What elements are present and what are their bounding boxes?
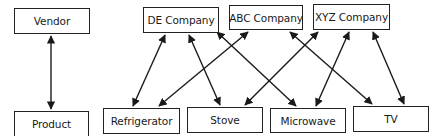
node-label: TV	[384, 113, 397, 125]
edge-de-company-stove	[189, 35, 220, 105]
node-de-company: DE Company	[143, 7, 219, 33]
node-label: Vendor	[34, 15, 70, 27]
node-xyz-company: XYZ Company	[313, 4, 390, 30]
node-label: Refrigerator	[111, 115, 173, 127]
vendor-product-diagram: Vendor Product DE Company ABC Company XY…	[0, 0, 439, 136]
edge-de-company-refrigerator	[133, 35, 165, 106]
node-microwave: Microwave	[270, 108, 346, 133]
edge-abc-company-tv	[290, 32, 372, 104]
edge-abc-company-refrigerator	[159, 32, 248, 106]
node-label: XYZ Company	[315, 11, 388, 23]
node-label: Stove	[210, 114, 239, 126]
node-label: ABC Company	[229, 12, 303, 24]
node-refrigerator: Refrigerator	[103, 108, 180, 134]
edge-xyz-company-tv	[373, 32, 404, 104]
edge-de-company-microwave	[217, 32, 296, 106]
node-label: DE Company	[147, 14, 214, 26]
node-tv: TV	[353, 106, 429, 132]
node-label: Microwave	[280, 115, 335, 127]
edge-xyz-company-microwave	[316, 32, 349, 106]
node-stove: Stove	[187, 107, 263, 133]
node-abc-company: ABC Company	[229, 5, 303, 30]
node-product: Product	[14, 111, 89, 136]
node-vendor: Vendor	[14, 8, 90, 34]
node-label: Product	[32, 118, 71, 130]
